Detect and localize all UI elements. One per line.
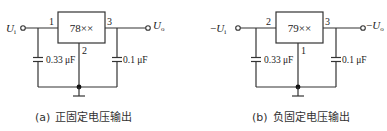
input-voltage-label-b: −Ui bbox=[210, 22, 226, 36]
pin-out-label-a: 3 bbox=[107, 16, 112, 27]
pin-in-label-a: 1 bbox=[49, 16, 54, 27]
output-terminal-b bbox=[361, 26, 366, 31]
output-voltage-label-b: −Uo bbox=[366, 19, 384, 33]
output-voltage-label-a: Uo bbox=[153, 19, 165, 33]
pin-out-label-b: 3 bbox=[325, 16, 330, 27]
pin-in-label-b: 2 bbox=[266, 16, 271, 27]
output-terminal-a bbox=[146, 26, 151, 31]
cap-out-value-a: 0.1 μF bbox=[123, 55, 148, 65]
regulator-label-b: 79×× bbox=[288, 22, 311, 34]
input-voltage-label-a: Ui bbox=[6, 22, 16, 36]
circuit-a-positive-regulator: Ui 1 78×× 3 Uo 0.33 μF 0.1 μF 2 (a)正固定电 bbox=[6, 12, 165, 124]
pin-gnd-label-a: 2 bbox=[82, 45, 87, 56]
cap-in-value-b: 0.33 μF bbox=[264, 55, 293, 65]
pin-gnd-label-b: 1 bbox=[301, 45, 306, 56]
circuit-b-negative-regulator: −Ui 2 79×× 3 −Uo 0.33 μF 0.1 μF 1 (b)负固定… bbox=[210, 12, 384, 124]
regulator-label-a: 78×× bbox=[70, 22, 93, 34]
cap-in-value-a: 0.33 μF bbox=[46, 55, 75, 65]
input-terminal-a bbox=[21, 26, 26, 31]
caption-a: (a)正固定电压输出 bbox=[35, 110, 132, 124]
caption-b: (b)负固定电压输出 bbox=[252, 110, 350, 124]
input-terminal-b bbox=[236, 26, 241, 31]
cap-out-value-b: 0.1 μF bbox=[342, 55, 367, 65]
